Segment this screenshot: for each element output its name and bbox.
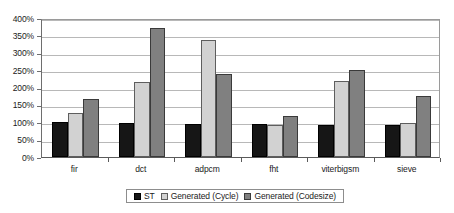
y-axis-tick-mark	[37, 89, 41, 90]
y-axis-tick-mark	[37, 19, 41, 20]
bar	[119, 123, 135, 157]
gridline	[42, 72, 439, 73]
x-axis-tick-mark	[108, 158, 109, 162]
legend-item: Generated (Codesize)	[244, 191, 336, 201]
y-axis: 0%50%100%150%200%250%300%350%400%	[0, 0, 38, 213]
y-axis-tick-mark	[37, 36, 41, 37]
bar	[385, 125, 401, 157]
y-axis-tick-mark	[37, 71, 41, 72]
x-axis-tick-mark	[307, 158, 308, 162]
legend-label: ST	[144, 191, 155, 201]
bar-group	[252, 20, 299, 157]
gridline	[42, 107, 439, 108]
bar-group	[185, 20, 232, 157]
bar	[201, 40, 217, 157]
bar-group	[52, 20, 99, 157]
x-axis-tick-mark	[174, 158, 175, 162]
plot-area	[41, 19, 440, 158]
chart-legend: STGenerated (Cycle)Generated (Codesize)	[126, 189, 344, 203]
bar	[283, 116, 299, 157]
bar	[150, 28, 166, 157]
bar	[267, 125, 283, 157]
bar	[318, 125, 334, 157]
bar	[83, 99, 99, 157]
legend-swatch-generated-codesize	[244, 193, 251, 200]
bar	[185, 124, 201, 157]
y-axis-tick-label: 400%	[13, 14, 34, 24]
bar	[68, 113, 84, 157]
y-axis-tick-mark	[37, 54, 41, 55]
x-axis-tick-mark	[241, 158, 242, 162]
gridline	[42, 37, 439, 38]
y-axis-tick-label: 50%	[17, 135, 34, 145]
gridline	[42, 124, 439, 125]
bar	[52, 122, 68, 157]
x-axis-tick-mark	[440, 158, 441, 162]
y-axis-tick-label: 0%	[22, 153, 34, 163]
bar-group	[318, 20, 365, 157]
x-axis-tick-label: fht	[241, 164, 308, 174]
gridline	[42, 90, 439, 91]
x-axis-tick-label: sieve	[374, 164, 441, 174]
x-axis-tick-label: dct	[108, 164, 175, 174]
bar-group	[119, 20, 166, 157]
gridline	[42, 55, 439, 56]
legend-item: Generated (Cycle)	[161, 191, 239, 201]
legend-label: Generated (Codesize)	[254, 191, 336, 201]
bar	[334, 81, 350, 157]
gridline	[42, 20, 439, 21]
x-axis-tick-label: adpcm	[174, 164, 241, 174]
bar	[349, 70, 365, 157]
y-axis-tick-mark	[37, 158, 41, 159]
y-axis-tick-mark	[37, 141, 41, 142]
y-axis-tick-label: 100%	[13, 118, 34, 128]
bar	[252, 124, 268, 157]
bar-group	[385, 20, 432, 157]
bar	[134, 82, 150, 157]
y-axis-tick-label: 250%	[13, 66, 34, 76]
y-axis-tick-label: 150%	[13, 100, 34, 110]
legend-swatch-st	[134, 193, 141, 200]
bar	[416, 96, 432, 158]
y-axis-tick-mark	[37, 123, 41, 124]
gridline	[42, 142, 439, 143]
y-axis-tick-mark	[37, 106, 41, 107]
bar-chart: 0%50%100%150%200%250%300%350%400% firdct…	[0, 0, 454, 213]
x-axis-tick-label: fir	[41, 164, 108, 174]
x-axis-tick-mark	[374, 158, 375, 162]
y-axis-tick-label: 300%	[13, 48, 34, 58]
bar	[216, 74, 232, 157]
bar	[400, 123, 416, 157]
legend-swatch-generated-cycle	[161, 193, 168, 200]
x-axis-tick-label: viterbigsm	[307, 164, 374, 174]
y-axis-tick-label: 200%	[13, 83, 34, 93]
legend-item: ST	[134, 191, 155, 201]
legend-label: Generated (Cycle)	[171, 191, 239, 201]
y-axis-tick-label: 350%	[13, 31, 34, 41]
